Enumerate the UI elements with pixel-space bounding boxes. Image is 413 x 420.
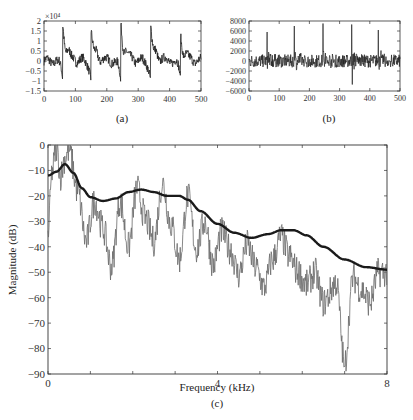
panel-c-caption: (c) xyxy=(211,397,224,410)
y-tick-label: 0 xyxy=(242,57,246,66)
y-tick-label: 2 xyxy=(37,16,41,26)
y-tick-label: −4000 xyxy=(225,77,246,86)
figure: −1.5−1−0.500.511.52 0100200300400500 ×10… xyxy=(0,0,413,420)
x-tick-label: 500 xyxy=(394,94,406,103)
y-tick-label: 2000 xyxy=(230,47,246,56)
panel-b-caption: (b) xyxy=(323,112,336,125)
y-tick-label: −10 xyxy=(28,164,46,176)
x-tick-label: 400 xyxy=(364,94,376,103)
y-tick-label: 6000 xyxy=(230,27,246,36)
y-tick-label: −30 xyxy=(28,215,46,227)
x-tick-label: 0 xyxy=(42,94,46,104)
panel-c-fft-spectrum xyxy=(48,145,387,371)
y-tick-label: 1 xyxy=(37,36,41,46)
y-tick-label: −1.5 xyxy=(26,86,41,96)
panel-b: −6000−4000−200002000400060008000 0100200… xyxy=(225,17,406,125)
panel-c: 0−10−20−30−40−50−60−70−80−90 048 Frequen… xyxy=(6,139,390,410)
x-tick-label: 300 xyxy=(132,94,145,104)
panel-a-caption: (a) xyxy=(116,112,129,125)
panel-a-waveform xyxy=(44,23,201,81)
x-tick-label: 0 xyxy=(45,377,51,389)
panel-b-frame xyxy=(249,21,400,91)
panel-b-residual xyxy=(249,24,400,85)
y-tick-label: −6000 xyxy=(225,87,246,96)
y-tick-label: −1 xyxy=(32,76,41,86)
y-tick-label: 0 xyxy=(37,56,41,66)
panel-a-y-ticks: −1.5−1−0.500.511.52 xyxy=(26,16,201,96)
y-tick-label: 8000 xyxy=(230,17,246,26)
y-tick-label: −0.5 xyxy=(26,66,41,76)
y-tick-label: 0.5 xyxy=(30,46,41,56)
x-tick-label: 200 xyxy=(303,94,315,103)
x-tick-label: 8 xyxy=(384,377,390,389)
y-tick-label: 4000 xyxy=(230,37,246,46)
panel-a: −1.5−1−0.500.511.52 0100200300400500 ×10… xyxy=(26,12,208,125)
panel-c-frame xyxy=(48,145,387,374)
y-tick-label: −40 xyxy=(28,241,46,253)
y-tick-label: −70 xyxy=(28,317,46,329)
y-tick-label: −60 xyxy=(28,292,46,304)
panel-c-ylabel: Magnitude (dB) xyxy=(6,224,19,295)
x-tick-label: 500 xyxy=(195,94,208,104)
x-tick-label: 300 xyxy=(334,94,346,103)
x-tick-label: 100 xyxy=(273,94,285,103)
panel-c-xlabel: Frequency (kHz) xyxy=(180,381,255,394)
y-tick-label: 0 xyxy=(40,139,46,151)
y-tick-label: −2000 xyxy=(225,67,246,76)
y-tick-label: −80 xyxy=(28,342,46,354)
x-tick-label: 0 xyxy=(247,94,251,103)
y-tick-label: 1.5 xyxy=(30,26,41,36)
x-tick-label: 400 xyxy=(163,94,176,104)
y-tick-label: −20 xyxy=(28,190,46,202)
panel-c-y-ticks: 0−10−20−30−40−50−60−70−80−90 xyxy=(28,139,387,380)
panel-c-x-ticks: 048 xyxy=(45,145,390,389)
x-tick-label: 200 xyxy=(100,94,113,104)
y-tick-label: −50 xyxy=(28,266,46,278)
panel-a-multiplier: ×10⁴ xyxy=(45,12,61,21)
y-tick-label: −90 xyxy=(28,368,46,380)
x-tick-label: 100 xyxy=(69,94,82,104)
panel-a-frame xyxy=(44,21,201,91)
